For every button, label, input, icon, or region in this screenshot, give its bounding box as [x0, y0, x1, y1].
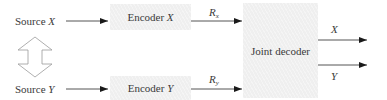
source-x-prefix: Source — [15, 15, 48, 27]
output-y-var: Y — [331, 70, 337, 82]
output-x-label: X — [331, 24, 338, 35]
source-y-label: Source Y — [15, 84, 54, 95]
encoder-x-box: Encoder X — [110, 4, 191, 30]
source-y-prefix: Source — [15, 83, 48, 95]
rate-y-label: Ry — [209, 74, 219, 87]
source-x-var: X — [48, 15, 55, 27]
output-y-label: Y — [331, 71, 337, 82]
rate-x-label: Rx — [209, 7, 219, 20]
double-arrow-icon — [18, 37, 52, 77]
encoder-x-var: X — [167, 11, 174, 23]
rate-x-symbol: R — [209, 6, 216, 18]
source-x-label: Source X — [15, 16, 55, 27]
rate-y-subscript: y — [216, 79, 219, 87]
output-x-var: X — [331, 23, 338, 35]
encoder-x-prefix: Encoder — [127, 11, 166, 23]
rate-x-subscript: x — [216, 12, 219, 20]
encoder-y-var: Y — [167, 82, 173, 94]
rate-y-symbol: R — [209, 73, 216, 85]
source-y-var: Y — [48, 83, 54, 95]
connector-layer — [0, 0, 387, 100]
joint-decoder-label: Joint decoder — [251, 45, 310, 57]
encoder-y-box: Encoder Y — [110, 76, 191, 100]
encoder-y-prefix: Encoder — [128, 82, 167, 94]
joint-decoder-box: Joint decoder — [243, 3, 318, 98]
